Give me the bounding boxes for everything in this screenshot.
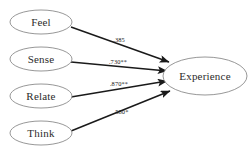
node-relate: Relate	[10, 84, 72, 108]
path-diagram-canvas: Feel Sense Relate Think Experience .385 …	[0, 0, 251, 156]
node-sense: Sense	[10, 47, 72, 71]
path-diagram-svg: Feel Sense Relate Think Experience .385 …	[0, 0, 251, 156]
node-think-label: Think	[27, 127, 55, 139]
node-feel: Feel	[10, 10, 72, 34]
edge-label-sense: .730**	[109, 58, 127, 65]
node-sense-label: Sense	[28, 53, 55, 65]
node-experience-label: Experience	[179, 70, 230, 82]
edge-label-feel: .385	[113, 36, 125, 43]
node-feel-label: Feel	[31, 16, 51, 28]
node-relate-label: Relate	[26, 90, 55, 102]
edge-label-relate: .870**	[110, 80, 128, 87]
node-experience: Experience	[163, 57, 247, 95]
edge-label-think: .580*	[114, 108, 129, 115]
node-think: Think	[10, 121, 72, 145]
edge-feel-to-experience	[71, 27, 169, 62]
edge-label-group: .385 .730** .870** .580*	[109, 36, 129, 115]
